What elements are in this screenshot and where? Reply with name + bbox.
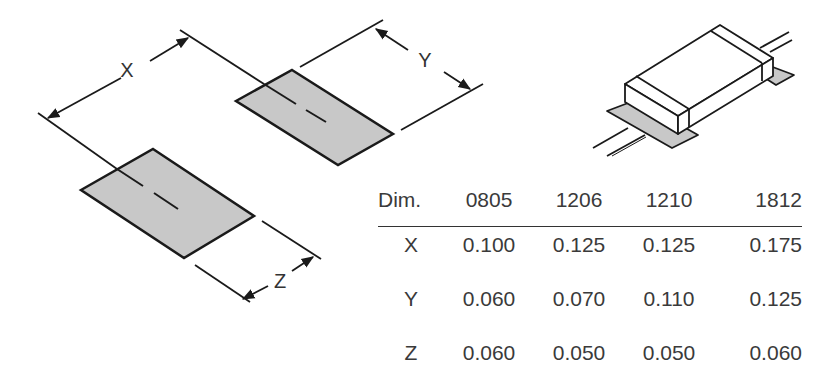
row-dim: X	[378, 233, 444, 257]
cell-value: 0.125	[534, 233, 624, 257]
z-dimension-label: Z	[274, 270, 286, 292]
cell-value: 0.050	[534, 341, 624, 365]
header-0805: 0805	[444, 188, 534, 212]
header-1210: 1210	[624, 188, 714, 212]
cell-value: 0.070	[534, 287, 624, 311]
header-1206: 1206	[534, 188, 624, 212]
cell-value: 0.125	[624, 233, 714, 257]
cell-value: 0.060	[444, 341, 534, 365]
left-pad	[81, 149, 254, 258]
row-dim: Z	[378, 341, 444, 365]
cell-value: 0.100	[444, 233, 534, 257]
table-row: Y 0.060 0.070 0.110 0.125	[378, 287, 802, 341]
y-dimension-label: Y	[418, 49, 431, 71]
cell-value: 0.060	[444, 287, 534, 311]
chip-component-illustration	[593, 25, 794, 156]
table-row: X 0.100 0.125 0.125 0.175	[378, 233, 802, 287]
header-1812: 1812	[714, 188, 802, 212]
x-dimension: X	[38, 30, 264, 169]
table-row: Z 0.060 0.050 0.050 0.060	[378, 341, 802, 386]
row-dim: Y	[378, 287, 444, 311]
table-header-row: Dim. 0805 1206 1210 1812	[378, 188, 802, 227]
cell-value: 0.125	[714, 287, 802, 311]
cell-value: 0.050	[624, 341, 714, 365]
right-pad	[236, 70, 393, 165]
x-dimension-label: X	[120, 59, 133, 81]
dimension-table: Dim. 0805 1206 1210 1812 X 0.100 0.125 0…	[378, 188, 802, 386]
cell-value: 0.110	[624, 287, 714, 311]
header-dim: Dim.	[378, 188, 444, 212]
cell-value: 0.060	[714, 341, 802, 365]
cell-value: 0.175	[714, 233, 802, 257]
